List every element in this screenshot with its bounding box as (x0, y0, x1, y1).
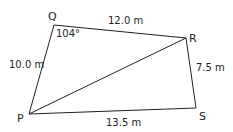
quadrilateral-diagram: Q R S P 104° 12.0 m 10.0 m 7.5 m 13.5 m (0, 0, 233, 132)
side-label-ps: 13.5 m (106, 117, 141, 128)
vertex-label-q: Q (48, 10, 57, 23)
diagram-svg: Q R S P 104° 12.0 m 10.0 m 7.5 m 13.5 m (0, 0, 233, 132)
vertex-label-s: S (199, 110, 206, 123)
vertex-label-r: R (189, 32, 197, 45)
side-label-pq: 10.0 m (9, 59, 44, 70)
quadrilateral-pqrs (29, 25, 196, 114)
vertex-label-p: P (17, 112, 24, 125)
angle-label-q: 104° (56, 28, 80, 39)
side-label-rs: 7.5 m (196, 62, 225, 73)
side-label-qr: 12.0 m (108, 15, 143, 26)
diagonal-pr (29, 38, 186, 114)
